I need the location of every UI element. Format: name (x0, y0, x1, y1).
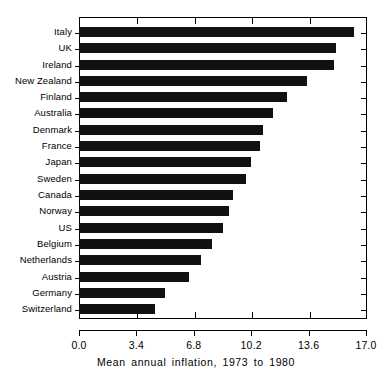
bar-row (79, 301, 367, 318)
bar (79, 157, 251, 167)
y-axis-label-denmark: Denmark (0, 125, 72, 135)
y-axis-label-australia: Australia (0, 108, 72, 118)
bar-row (79, 122, 367, 139)
x-axis-line (79, 330, 367, 331)
bar (79, 92, 287, 102)
x-axis-title: Mean annual inflation, 1973 to 1980 (0, 356, 392, 368)
bars-layer (79, 17, 367, 319)
x-axis-scale-tick (309, 330, 310, 336)
y-axis-label-finland: Finland (0, 92, 72, 102)
bar-row (79, 89, 367, 106)
bar-row (79, 40, 367, 57)
bar-row (79, 269, 367, 286)
bar (79, 60, 334, 70)
y-axis-label-japan: Japan (0, 157, 72, 167)
bar (79, 239, 212, 249)
bar (79, 304, 155, 314)
bar-row (79, 285, 367, 302)
bar (79, 190, 233, 200)
bar (79, 125, 263, 135)
y-axis-label-norway: Norway (0, 206, 72, 216)
y-axis-label-netherlands: Netherlands (0, 255, 72, 265)
y-axis-label-canada: Canada (0, 190, 72, 200)
x-axis-scale-tick (251, 330, 252, 336)
x-axis-tick-label: 13.6 (298, 339, 319, 351)
bar-row (79, 105, 367, 122)
x-axis-scale-tick (366, 330, 367, 336)
bar (79, 223, 223, 233)
bar (79, 43, 336, 53)
bar-row (79, 24, 367, 41)
bar-row (79, 73, 367, 90)
x-axis-scale-tick (79, 330, 80, 336)
x-axis-scale-tick (136, 330, 137, 336)
bar-row (79, 154, 367, 171)
bar-row (79, 57, 367, 74)
bar (79, 206, 229, 216)
y-axis-label-us: US (0, 223, 72, 233)
bar (79, 76, 307, 86)
bar-row (79, 236, 367, 253)
y-axis-labels: ItalyUKIrelandNew ZealandFinlandAustrali… (0, 17, 72, 319)
y-axis-label-sweden: Sweden (0, 174, 72, 184)
bar-row (79, 187, 367, 204)
y-axis-label-italy: Italy (0, 27, 72, 37)
x-axis-tick-label: 17.0 (355, 339, 376, 351)
x-axis-tick-label: 0.0 (71, 339, 86, 351)
bar (79, 141, 260, 151)
x-axis-tick-label: 10.2 (241, 339, 262, 351)
bar (79, 255, 201, 265)
bar (79, 174, 246, 184)
x-axis-tick-label: 3.4 (129, 339, 144, 351)
x-axis-scale-tick (194, 330, 195, 336)
bar-row (79, 203, 367, 220)
bar-row (79, 220, 367, 237)
y-axis-label-austria: Austria (0, 272, 72, 282)
y-axis-label-switzerland: Switzerland (0, 304, 72, 314)
bar-row (79, 171, 367, 188)
inflation-bar-chart: ItalyUKIrelandNew ZealandFinlandAustrali… (0, 0, 392, 383)
y-axis-label-france: France (0, 141, 72, 151)
y-axis-label-new-zealand: New Zealand (0, 76, 72, 86)
bar (79, 288, 165, 298)
bar (79, 108, 273, 118)
y-axis-label-germany: Germany (0, 288, 72, 298)
bar-row (79, 138, 367, 155)
bar (79, 272, 189, 282)
x-axis: 0.03.46.810.213.617.0 (79, 330, 367, 338)
bar-row (79, 252, 367, 269)
y-axis-label-uk: UK (0, 43, 72, 53)
y-axis-label-belgium: Belgium (0, 239, 72, 249)
bar (79, 27, 354, 37)
y-axis-label-ireland: Ireland (0, 60, 72, 70)
x-axis-tick-label: 6.8 (186, 339, 201, 351)
